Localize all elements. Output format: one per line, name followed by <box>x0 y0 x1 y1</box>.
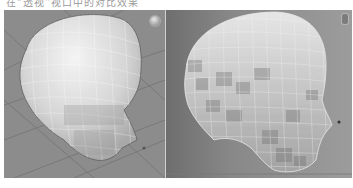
viewcube-gizmo-icon[interactable] <box>342 14 348 24</box>
head-mesh-right[interactable] <box>166 10 352 178</box>
viewport-right[interactable] <box>166 10 352 178</box>
figure-caption: 在“透视”视口中的对比效果 <box>6 0 139 9</box>
viewport-left[interactable] <box>4 10 165 178</box>
viewcube-gizmo-icon[interactable] <box>150 16 160 26</box>
head-mesh-left[interactable] <box>4 10 165 178</box>
